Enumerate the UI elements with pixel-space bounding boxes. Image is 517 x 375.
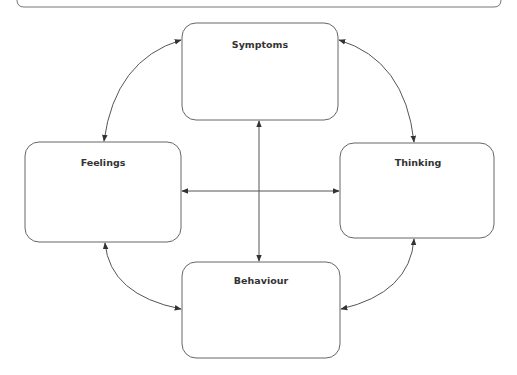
arrow-feelings-behaviour <box>105 243 181 309</box>
cbt-cycle-diagram: Symptoms Feelings Thinking Behaviour <box>0 0 517 375</box>
node-label: Symptoms <box>232 39 289 50</box>
node-thinking: Thinking <box>340 143 494 238</box>
arrow-symptoms-feelings <box>104 40 181 141</box>
node-label: Behaviour <box>234 275 289 286</box>
arrow-thinking-behaviour <box>341 239 414 309</box>
top-partial-box <box>17 0 501 7</box>
node-label: Feelings <box>81 157 126 168</box>
node-label: Thinking <box>395 157 441 168</box>
arrow-symptoms-thinking <box>339 40 414 142</box>
node-behaviour: Behaviour <box>182 262 340 358</box>
node-symptoms: Symptoms <box>182 23 338 120</box>
node-feelings: Feelings <box>25 142 181 242</box>
